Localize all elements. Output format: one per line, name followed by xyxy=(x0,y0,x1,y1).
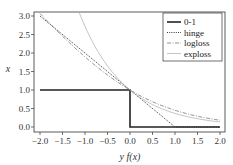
series-0-1-line xyxy=(40,90,220,127)
y-tick-label: 3.0 xyxy=(19,11,31,21)
y-tick-label: 0.0 xyxy=(19,122,31,132)
y-tick-label: 1.5 xyxy=(19,67,31,77)
x-tick-label: 0.5 xyxy=(147,136,159,146)
y-tick-label: 1.0 xyxy=(19,85,31,95)
x-axis-label: y f(x) xyxy=(119,151,141,163)
x-tick-label: −2.0 xyxy=(32,136,49,146)
legend-label: 0-1 xyxy=(184,17,196,27)
legend-label: hinge xyxy=(184,28,204,38)
y-axis-label: x xyxy=(5,63,11,74)
y-tick-label: 2.5 xyxy=(19,30,31,40)
legend-label: logloss xyxy=(184,38,210,48)
x-tick-label: −0.5 xyxy=(99,136,116,146)
x-tick-label: 2.0 xyxy=(214,136,226,146)
x-tick-label: 0.0 xyxy=(124,136,136,146)
loss-function-chart: −2.0−1.5−1.0−0.50.00.51.01.52.0 0.00.51.… xyxy=(0,0,233,165)
legend: 0-1hingeloglossexploss xyxy=(163,13,222,61)
x-tick-label: 1.5 xyxy=(192,136,204,146)
y-tick-label: 0.5 xyxy=(19,104,31,114)
x-axis-ticks: −2.0−1.5−1.0−0.50.00.51.01.52.0 xyxy=(32,132,226,146)
y-tick-label: 2.0 xyxy=(19,48,31,58)
legend-label: exploss xyxy=(184,49,211,59)
x-tick-label: 1.0 xyxy=(169,136,181,146)
x-tick-label: −1.0 xyxy=(77,136,94,146)
y-axis-ticks: 0.00.51.01.52.02.53.0 xyxy=(19,11,34,132)
x-tick-label: −1.5 xyxy=(54,136,71,146)
